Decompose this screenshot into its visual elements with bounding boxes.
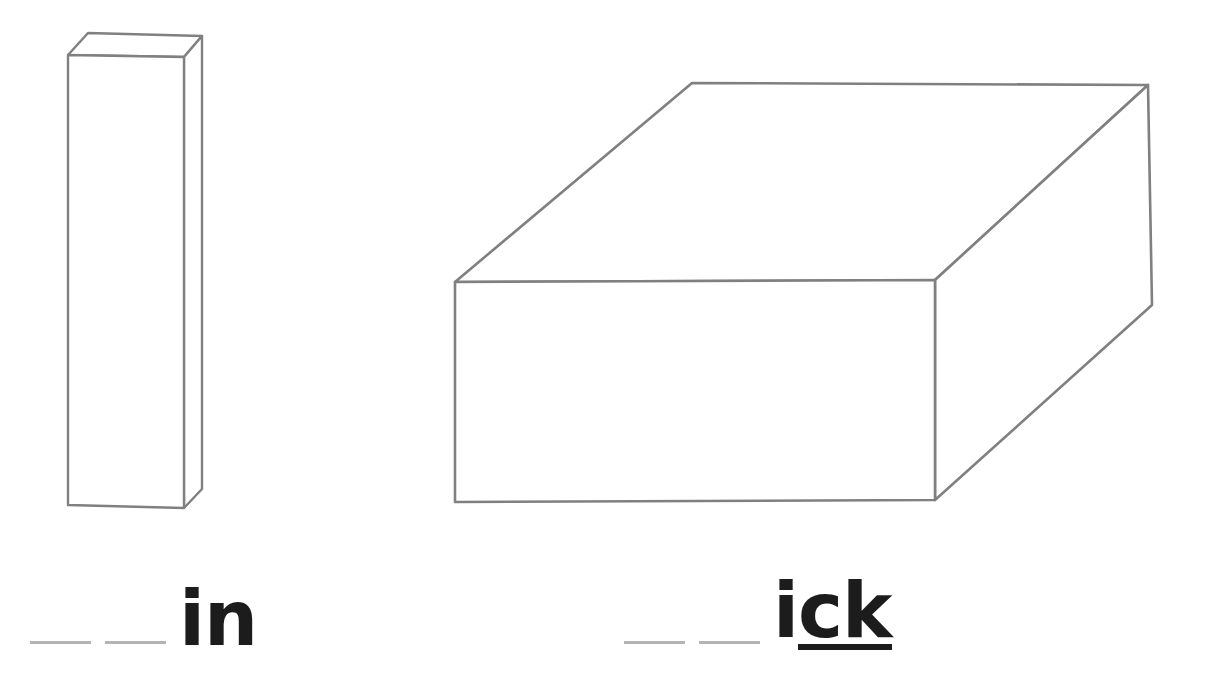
blank-line-2[interactable] [105, 641, 166, 644]
word-ending-ick-underlined: ck [798, 580, 892, 650]
worksheet-page: in ick [0, 0, 1206, 673]
blank-line-1[interactable] [30, 641, 91, 644]
thin-tall-box-figure [68, 33, 202, 508]
word-ending-ick-plain: i [773, 566, 798, 655]
word-entry-in: in [30, 560, 257, 650]
wide-flat-box-figure [455, 83, 1152, 502]
thin-box-right-face [184, 36, 202, 508]
wide-box-front-face [455, 280, 935, 502]
blank-line-3[interactable] [624, 641, 685, 644]
word-entry-ick: ick [624, 560, 892, 650]
blank-line-4[interactable] [699, 641, 760, 644]
thin-box-front-face [68, 55, 184, 508]
thin-box-top-face [68, 33, 202, 57]
word-ending-ick: ick [773, 580, 892, 650]
word-answer-row: in ick [0, 560, 1206, 673]
word-ending-in: in [179, 588, 257, 650]
